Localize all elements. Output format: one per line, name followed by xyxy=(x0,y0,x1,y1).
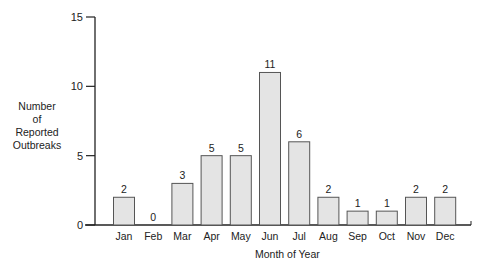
data-label: 2 xyxy=(413,183,419,195)
bar-chart: 0510152Jan0Feb3Mar5Apr5May11Jun6Jul2Aug1… xyxy=(0,0,490,280)
data-label: 0 xyxy=(150,211,156,223)
bar-sep xyxy=(347,211,368,225)
bar-aug xyxy=(318,197,339,225)
x-tick-label: Feb xyxy=(144,230,162,242)
data-label: 11 xyxy=(265,58,276,70)
x-tick-label: Aug xyxy=(319,230,338,242)
bar-jun xyxy=(260,72,281,225)
y-tick-label: 15 xyxy=(71,11,83,23)
bar-jan xyxy=(114,197,135,225)
data-label: 2 xyxy=(442,183,448,195)
data-label: 5 xyxy=(209,142,215,154)
bar-apr xyxy=(201,156,222,225)
y-tick-label: 5 xyxy=(77,150,83,162)
data-label: 1 xyxy=(384,197,390,209)
x-tick-label: Oct xyxy=(379,230,395,242)
x-tick-label: Dec xyxy=(436,230,455,242)
bar-mar xyxy=(172,183,193,225)
x-tick-label: May xyxy=(231,230,252,242)
data-label: 1 xyxy=(355,197,361,209)
x-tick-label: Apr xyxy=(203,230,220,242)
data-label: 6 xyxy=(296,128,302,140)
data-label: 3 xyxy=(179,169,185,181)
data-label: 2 xyxy=(121,183,127,195)
y-tick-label: 0 xyxy=(77,219,83,231)
x-tick-label: Sep xyxy=(348,230,367,242)
x-tick-label: Jul xyxy=(292,230,305,242)
data-label: 2 xyxy=(325,183,331,195)
x-tick-label: Jan xyxy=(116,230,133,242)
x-tick-label: Mar xyxy=(173,230,192,242)
x-tick-label: Jun xyxy=(262,230,279,242)
bar-dec xyxy=(435,197,456,225)
bar-nov xyxy=(406,197,427,225)
data-label: 5 xyxy=(238,142,244,154)
x-tick-label: Nov xyxy=(407,230,426,242)
bar-may xyxy=(230,156,251,225)
bar-jul xyxy=(289,142,310,225)
bar-oct xyxy=(376,211,397,225)
y-tick-label: 10 xyxy=(71,80,83,92)
